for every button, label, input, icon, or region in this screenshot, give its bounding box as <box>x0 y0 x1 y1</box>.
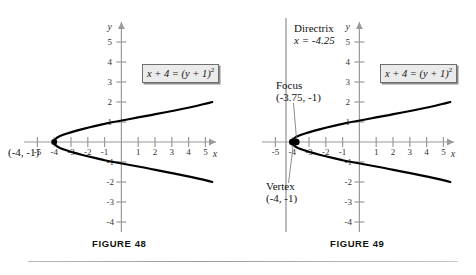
figure-49: -5 -4 -3 -2 -1 1 2 3 4 5 x <box>238 0 476 275</box>
y-tick-label: 5 <box>346 37 351 47</box>
directrix-label-detail: x = -4.25 <box>294 34 335 46</box>
y-axis-name: y <box>345 21 351 32</box>
y-tick-label: 3 <box>108 77 113 87</box>
x-tick-label: -5 <box>272 147 280 157</box>
vertex-point-label: (-4, -1) <box>8 146 39 158</box>
x-tick-label: 1 <box>136 147 141 157</box>
x-tick-label: 2 <box>391 147 396 157</box>
directrix-label: Directrix x = -4.25 <box>294 22 335 47</box>
focus-label: Focus (-3.75, -1) <box>276 79 321 104</box>
x-tick-label: -1 <box>339 147 347 157</box>
y-tick-label: -3 <box>345 197 353 207</box>
y-tick-label: -2 <box>345 177 353 187</box>
vertex-label-detail: (-4, -1) <box>266 192 297 204</box>
y-tick-label: 4 <box>108 57 113 67</box>
focus-leader-line <box>294 103 297 139</box>
x-tick-label: 4 <box>186 147 191 157</box>
y-axis: 5 4 3 2 1 -1 -2 -3 -4 y <box>345 21 365 232</box>
y-tick-label: -4 <box>345 217 353 227</box>
x-tick-label: 2 <box>153 147 158 157</box>
figure-48-caption: FIGURE 48 <box>92 238 147 249</box>
bottom-divider <box>28 261 458 262</box>
y-tick-label: 3 <box>346 77 351 87</box>
vertex-dot <box>51 139 57 145</box>
vertex-label: Vertex (-4, -1) <box>266 180 297 205</box>
equation-text: x + 4 = (y + 1) <box>385 68 449 79</box>
y-tick-label: -2 <box>107 177 115 187</box>
equation-text: x + 4 = (y + 1) <box>147 68 211 79</box>
equation-exponent: 2 <box>211 66 215 74</box>
equation-label: x + 4 = (y + 1)2 <box>142 64 219 83</box>
x-tick-label: 5 <box>441 147 446 157</box>
focus-label-detail: (-3.75, -1) <box>276 91 321 103</box>
x-tick-label: 4 <box>424 147 429 157</box>
vertex-label-title: Vertex <box>266 180 297 192</box>
equation-label: x + 4 = (y + 1)2 <box>380 64 457 83</box>
x-tick-label: 3 <box>170 147 175 157</box>
x-tick-label: -4 <box>50 147 58 157</box>
equation-exponent: 2 <box>449 66 453 74</box>
x-axis-name: x <box>212 148 218 159</box>
y-tick-label: 2 <box>346 97 351 107</box>
y-axis: 5 4 3 2 1 -1 -2 -3 -4 y <box>107 21 127 232</box>
y-tick-label: 2 <box>108 97 113 107</box>
y-tick-label: 5 <box>108 37 113 47</box>
focus-dot <box>293 139 299 145</box>
x-tick-label: 3 <box>408 147 413 157</box>
x-tick-label: 1 <box>374 147 379 157</box>
focus-label-title: Focus <box>276 79 321 91</box>
figure-48-plot: -5 -4 -3 -2 -1 1 2 3 4 5 x <box>0 0 238 240</box>
x-tick-label: 5 <box>203 147 208 157</box>
figure-49-caption: FIGURE 49 <box>330 238 385 249</box>
y-tick-label: -3 <box>107 197 115 207</box>
y-axis-name: y <box>107 21 113 32</box>
x-tick-label: -1 <box>101 147 109 157</box>
y-tick-label: -4 <box>107 217 115 227</box>
directrix-label-title: Directrix <box>294 22 335 34</box>
x-axis-name: x <box>450 148 456 159</box>
y-tick-label: 4 <box>346 57 351 67</box>
figure-48: -5 -4 -3 -2 -1 1 2 3 4 5 x <box>0 0 238 275</box>
